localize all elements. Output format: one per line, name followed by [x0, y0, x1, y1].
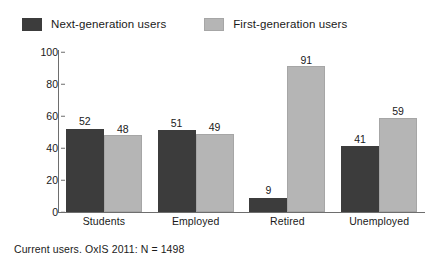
bar-chart-figure: Next-generation users First-generation u…	[0, 0, 442, 269]
bar-employed-first-generation[interactable]: 49	[196, 134, 234, 212]
legend-swatch-next-generation	[22, 18, 42, 31]
y-tick-label: 20	[46, 175, 58, 186]
bar-students-first-generation[interactable]: 48	[104, 135, 142, 212]
bar-slot-unemployed-next: 41	[341, 52, 379, 212]
legend-swatch-first-generation	[204, 18, 224, 31]
bar-group-unemployed: 41 59	[333, 52, 425, 212]
bar-slot-students-next: 52	[66, 52, 104, 212]
bar-employed-next-generation[interactable]: 51	[158, 130, 196, 212]
legend-entry-first-generation: First-generation users	[204, 18, 347, 31]
bar-value-label: 9	[265, 185, 271, 196]
bar-value-label: 49	[209, 122, 221, 133]
y-tick-80: 80	[46, 79, 58, 90]
bar-value-label: 59	[392, 106, 404, 117]
bar-slot-retired-next: 9	[249, 52, 287, 212]
x-tick-students: Students	[58, 215, 150, 227]
bar-retired-first-generation[interactable]: 91	[287, 66, 325, 212]
y-tick-label: 80	[46, 79, 58, 90]
x-tick-unemployed: Unemployed	[333, 215, 425, 227]
bar-value-label: 52	[79, 116, 91, 127]
y-tick-label: 40	[46, 143, 58, 154]
chart-legend: Next-generation users First-generation u…	[22, 14, 347, 34]
y-tick-20: 20	[46, 175, 58, 186]
bar-groups: 52 48 51 49	[58, 52, 425, 212]
bar-unemployed-first-generation[interactable]: 59	[379, 118, 417, 212]
bar-value-label: 91	[301, 55, 313, 66]
y-tick-label: 60	[46, 111, 58, 122]
bar-slot-retired-first: 91	[287, 52, 325, 212]
y-tick-100: 100	[40, 47, 58, 58]
bar-value-label: 48	[117, 124, 129, 135]
bar-slot-employed-next: 51	[158, 52, 196, 212]
chart-caption: Current users. OxIS 2011: N = 1498	[14, 243, 184, 255]
x-axis-tick-labels: Students Employed Retired Unemployed	[58, 215, 425, 227]
legend-label-next-generation: Next-generation users	[51, 18, 166, 30]
bar-students-next-generation[interactable]: 52	[66, 129, 104, 212]
bar-slot-employed-first: 49	[196, 52, 234, 212]
legend-entry-next-generation: Next-generation users	[22, 18, 166, 31]
bar-group-retired: 9 91	[242, 52, 334, 212]
bar-unemployed-next-generation[interactable]: 41	[341, 146, 379, 212]
bar-value-label: 41	[354, 134, 366, 145]
bar-slot-students-first: 48	[104, 52, 142, 212]
x-tick-employed: Employed	[150, 215, 242, 227]
bar-value-label: 51	[171, 118, 183, 129]
bar-slot-unemployed-first: 59	[379, 52, 417, 212]
y-tick-label: 100	[40, 47, 58, 58]
x-tick-retired: Retired	[242, 215, 334, 227]
bar-group-employed: 51 49	[150, 52, 242, 212]
y-tick-40: 40	[46, 143, 58, 154]
bar-group-students: 52 48	[58, 52, 150, 212]
x-axis-line	[58, 212, 425, 213]
bar-retired-next-generation[interactable]: 9	[249, 198, 287, 212]
y-tick-60: 60	[46, 111, 58, 122]
legend-label-first-generation: First-generation users	[233, 18, 347, 30]
